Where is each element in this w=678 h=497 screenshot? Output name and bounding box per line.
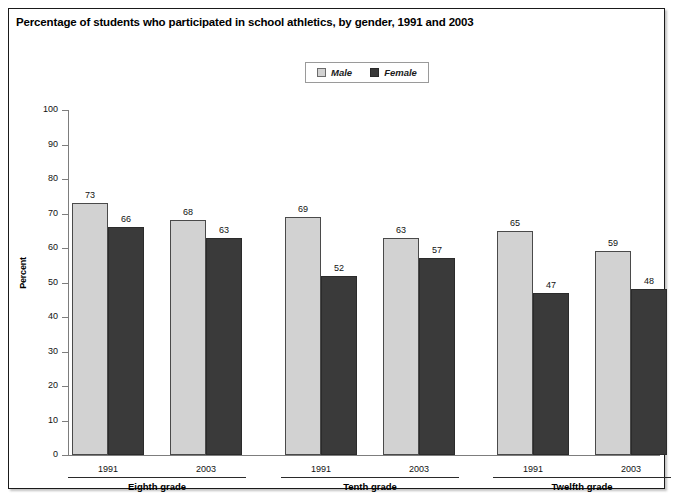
y-axis-tick-label: 50 xyxy=(16,277,58,287)
bar-value-label: 66 xyxy=(98,214,154,224)
bar-male xyxy=(72,203,108,455)
bar-male xyxy=(383,238,419,455)
y-axis-tick-label: 80 xyxy=(16,173,58,183)
bar-value-label: 59 xyxy=(585,238,641,248)
y-axis-title: Percent xyxy=(18,243,28,303)
x-axis-year-label: 1991 xyxy=(503,464,563,474)
y-axis-tick xyxy=(62,421,69,422)
bar-female xyxy=(533,293,569,455)
bar-female xyxy=(321,276,357,455)
y-axis-tick xyxy=(62,145,69,146)
x-axis-year-label: 2003 xyxy=(601,464,661,474)
bar-male xyxy=(285,217,321,455)
x-axis-line xyxy=(68,455,660,456)
y-axis-tick xyxy=(62,386,69,387)
y-axis-tick xyxy=(62,179,69,180)
bar-value-label: 47 xyxy=(523,280,579,290)
x-axis-year-label: 2003 xyxy=(176,464,236,474)
x-axis-year-label: 1991 xyxy=(291,464,351,474)
bar-value-label: 48 xyxy=(621,276,677,286)
bar-value-label: 68 xyxy=(160,207,216,217)
bar-female xyxy=(206,238,242,455)
group-rule xyxy=(281,477,459,478)
y-axis-tick-label: 10 xyxy=(16,415,58,425)
bar-female xyxy=(631,289,667,455)
bar-female xyxy=(108,227,144,455)
y-axis-tick-label: 100 xyxy=(16,104,58,114)
y-axis-tick xyxy=(62,455,69,456)
y-axis-tick xyxy=(62,214,69,215)
bar-value-label: 73 xyxy=(62,190,118,200)
bar-male xyxy=(170,220,206,455)
group-rule xyxy=(68,477,246,478)
bar-value-label: 57 xyxy=(409,245,465,255)
x-axis-year-label: 1991 xyxy=(78,464,138,474)
bar-female xyxy=(419,258,455,455)
bar-value-label: 52 xyxy=(311,263,367,273)
y-axis-tick-label: 90 xyxy=(16,139,58,149)
y-axis-tick-label: 30 xyxy=(16,346,58,356)
y-axis-tick-label: 0 xyxy=(16,449,58,459)
y-axis-tick xyxy=(62,317,69,318)
y-axis-tick-label: 40 xyxy=(16,311,58,321)
group-rule xyxy=(493,477,671,478)
y-axis-tick-label: 70 xyxy=(16,208,58,218)
bar-value-label: 63 xyxy=(196,225,252,235)
y-axis-tick-label: 20 xyxy=(16,380,58,390)
bar-value-label: 69 xyxy=(275,204,331,214)
plot-area: Percent 0102030405060708090100 736668636… xyxy=(0,0,678,497)
bar-male xyxy=(497,231,533,455)
y-axis-tick-label: 60 xyxy=(16,242,58,252)
y-axis-tick xyxy=(62,352,69,353)
x-axis-year-label: 2003 xyxy=(389,464,449,474)
x-axis-group-label: Twelfth grade xyxy=(453,481,678,492)
bar-value-label: 63 xyxy=(373,225,429,235)
bar-value-label: 65 xyxy=(487,218,543,228)
y-axis-tick xyxy=(62,283,69,284)
y-axis-tick xyxy=(62,248,69,249)
y-axis-tick xyxy=(62,110,69,111)
